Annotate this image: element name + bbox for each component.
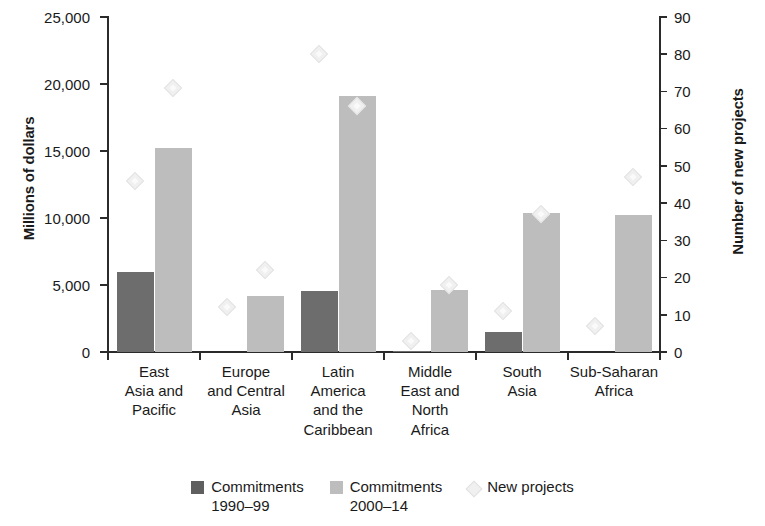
axis-tick xyxy=(100,150,107,152)
axis-tick xyxy=(107,352,109,360)
bar-commitments-2000-14 xyxy=(155,148,192,352)
axis-tick xyxy=(660,202,667,204)
axis-tick xyxy=(660,314,667,316)
dark-square-swatch xyxy=(191,481,204,494)
axis-tick xyxy=(660,165,667,167)
bar-commitments-2000-14 xyxy=(339,96,376,352)
right-tick-label: 0 xyxy=(674,345,734,360)
right-tick-label: 50 xyxy=(674,159,734,174)
axis-tick xyxy=(100,284,107,286)
legend-item-commitments-1990-99[interactable]: Commitments1990–99 xyxy=(191,478,304,516)
axis-tick xyxy=(199,352,201,360)
new-projects-marker xyxy=(310,45,328,63)
bar-chart: Millions of dollars Number of new projec… xyxy=(0,0,765,526)
light-square-swatch xyxy=(330,481,343,494)
axis-tick xyxy=(660,16,667,18)
left-tick-label: 25,000 xyxy=(10,10,90,25)
bar-commitments-1990-99 xyxy=(485,332,522,352)
bar-commitments-2000-14 xyxy=(615,215,652,352)
axis-tick xyxy=(383,352,385,360)
new-projects-marker xyxy=(218,298,236,316)
category-label: EastAsia andPacific xyxy=(108,362,200,420)
axis-tick xyxy=(660,240,667,242)
diamond-marker-swatch xyxy=(466,481,483,498)
new-projects-marker xyxy=(164,79,182,97)
new-projects-marker xyxy=(402,332,420,350)
axis-tick xyxy=(475,352,477,360)
axis-tick xyxy=(660,53,667,55)
legend-item-new-projects[interactable]: New projects xyxy=(468,478,574,497)
axis-tick xyxy=(100,83,107,85)
left-tick-label: 5,000 xyxy=(10,278,90,293)
axis-tick xyxy=(100,16,107,18)
right-tick-label: 10 xyxy=(674,308,734,323)
new-projects-marker xyxy=(126,172,144,190)
left-axis-title: Millions of dollars xyxy=(20,89,37,269)
category-label: Europeand CentralAsia xyxy=(200,362,292,420)
bar-commitments-2000-14 xyxy=(247,296,284,352)
legend-item-commitments-2000-14[interactable]: Commitments2000–14 xyxy=(330,478,443,516)
bar-commitments-1990-99 xyxy=(117,272,154,352)
legend-label: Commitments1990–99 xyxy=(211,478,304,516)
chart-legend: Commitments1990–99 Commitments2000–14 Ne… xyxy=(0,478,765,516)
axis-tick xyxy=(100,351,107,353)
new-projects-marker xyxy=(586,317,604,335)
left-tick-label: 20,000 xyxy=(10,77,90,92)
axis-tick xyxy=(660,351,667,353)
right-tick-label: 80 xyxy=(674,47,734,62)
axis-tick xyxy=(660,277,667,279)
bar-commitments-1990-99 xyxy=(301,291,338,352)
bar-commitments-1990-99 xyxy=(393,351,430,352)
axis-tick xyxy=(660,128,667,130)
legend-label: Commitments2000–14 xyxy=(350,478,443,516)
axis-tick xyxy=(660,91,667,93)
category-label: LatinAmericaand theCaribbean xyxy=(292,362,384,439)
bar-commitments-2000-14 xyxy=(523,213,560,352)
axis-tick xyxy=(100,217,107,219)
new-projects-marker xyxy=(624,168,642,186)
left-tick-label: 15,000 xyxy=(10,144,90,159)
axis-tick xyxy=(567,352,569,360)
right-tick-label: 30 xyxy=(674,233,734,248)
left-tick-label: 0 xyxy=(10,345,90,360)
right-tick-label: 60 xyxy=(674,121,734,136)
category-label: SouthAsia xyxy=(476,362,568,400)
axis-tick xyxy=(659,352,661,360)
category-label: Sub-SaharanAfrica xyxy=(568,362,660,400)
right-tick-label: 90 xyxy=(674,10,734,25)
axis-tick xyxy=(291,352,293,360)
right-tick-label: 20 xyxy=(674,270,734,285)
category-label: MiddleEast andNorthAfrica xyxy=(384,362,476,439)
right-tick-label: 70 xyxy=(674,84,734,99)
new-projects-marker xyxy=(256,261,274,279)
right-tick-label: 40 xyxy=(674,196,734,211)
plot-area xyxy=(108,17,660,352)
new-projects-marker xyxy=(494,302,512,320)
bar-commitments-2000-14 xyxy=(431,290,468,352)
left-tick-label: 10,000 xyxy=(10,211,90,226)
legend-label: New projects xyxy=(487,478,574,497)
